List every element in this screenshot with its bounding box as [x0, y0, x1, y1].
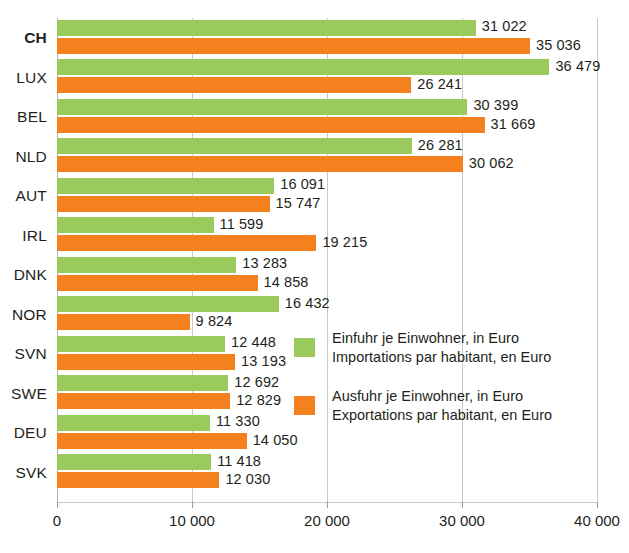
bar-group-bel: BEL30 39931 669 [0, 97, 629, 137]
category-label-bel: BEL [0, 97, 47, 137]
bar-export-bel [57, 117, 485, 133]
legend-label-de: Einfuhr je Einwohner, in Euro [332, 329, 551, 348]
value-label-export-svn: 13 193 [241, 353, 286, 369]
x-tick-label: 40 000 [574, 512, 620, 529]
bar-group-svk: SVK11 41812 030 [0, 453, 629, 493]
value-label-import-nor: 16 432 [285, 295, 330, 311]
bar-group-aut: AUT16 09115 747 [0, 176, 629, 216]
x-tick-label: 30 000 [439, 512, 485, 529]
bar-group-dnk: DNK13 28314 858 [0, 255, 629, 295]
category-label-lux: LUX [0, 58, 47, 98]
tick-mark [597, 502, 598, 508]
tick-mark [192, 502, 193, 508]
value-label-export-bel: 31 669 [491, 116, 536, 132]
legend-label-de: Ausfuhr je Einwohner, in Euro [332, 387, 552, 406]
bar-export-nld [57, 156, 463, 172]
category-label-svn: SVN [0, 334, 47, 374]
bar-group-lux: LUX36 47926 241 [0, 58, 629, 98]
bar-import-bel [57, 99, 467, 115]
legend-label-fr: Importations par habitant, en Euro [332, 348, 551, 367]
grouped-bar-chart: 010 00020 00030 00040 000 CH31 02235 036… [0, 0, 629, 553]
bar-export-svk [57, 472, 219, 488]
legend-item-export: Ausfuhr je Einwohner, in EuroExportation… [294, 390, 594, 430]
legend-label: Ausfuhr je Einwohner, in EuroExportation… [332, 387, 552, 425]
x-tick-label: 20 000 [304, 512, 350, 529]
value-label-import-lux: 36 479 [555, 58, 600, 74]
value-label-import-swe: 12 692 [234, 374, 279, 390]
bar-import-nld [57, 138, 412, 154]
value-label-import-dnk: 13 283 [242, 255, 287, 271]
bar-import-dnk [57, 257, 236, 273]
value-label-import-bel: 30 399 [473, 97, 518, 113]
tick-mark [57, 502, 58, 508]
value-label-export-irl: 19 215 [322, 234, 367, 250]
bar-import-lux [57, 59, 549, 75]
value-label-import-irl: 11 599 [220, 216, 264, 232]
value-label-import-nld: 26 281 [418, 137, 463, 153]
bar-group-ch: CH31 02235 036 [0, 18, 629, 58]
legend-swatch-green [294, 338, 315, 357]
category-label-dnk: DNK [0, 255, 47, 295]
category-label-svk: SVK [0, 453, 47, 493]
x-tick-label: 10 000 [169, 512, 215, 529]
value-label-export-ch: 35 036 [536, 37, 581, 53]
value-label-import-ch: 31 022 [482, 18, 527, 34]
bar-import-irl [57, 217, 214, 233]
bar-import-swe [57, 375, 228, 391]
value-label-export-aut: 15 747 [276, 195, 321, 211]
category-label-nor: NOR [0, 295, 47, 335]
category-label-ch: CH [0, 18, 47, 58]
tick-mark [327, 502, 328, 508]
bar-import-ch [57, 20, 476, 36]
bar-export-nor [57, 314, 190, 330]
value-label-import-aut: 16 091 [280, 176, 325, 192]
category-label-nld: NLD [0, 137, 47, 177]
value-label-export-svk: 12 030 [225, 471, 270, 487]
value-label-import-svn: 12 448 [231, 334, 276, 350]
bar-import-aut [57, 178, 274, 194]
value-label-export-nld: 30 062 [469, 155, 514, 171]
tick-mark [462, 502, 463, 508]
legend-label-fr: Exportations par habitant, en Euro [332, 406, 552, 425]
bar-export-deu [57, 433, 247, 449]
value-label-export-dnk: 14 858 [264, 274, 309, 290]
bar-import-svk [57, 454, 211, 470]
category-label-swe: SWE [0, 374, 47, 414]
category-label-irl: IRL [0, 216, 47, 256]
bar-export-swe [57, 393, 230, 409]
value-label-export-deu: 14 050 [253, 432, 298, 448]
category-label-deu: DEU [0, 413, 47, 453]
bar-import-svn [57, 336, 225, 352]
bar-export-dnk [57, 275, 258, 291]
category-label-aut: AUT [0, 176, 47, 216]
bar-group-irl: IRL11 59919 215 [0, 216, 629, 256]
legend-label: Einfuhr je Einwohner, in EuroImportation… [332, 329, 551, 367]
bar-export-lux [57, 77, 411, 93]
value-label-import-deu: 11 330 [216, 413, 260, 429]
bar-export-irl [57, 235, 316, 251]
x-tick-label: 0 [53, 512, 61, 529]
value-label-import-svk: 11 418 [217, 453, 261, 469]
value-label-export-swe: 12 829 [236, 392, 281, 408]
bar-group-nld: NLD26 28130 062 [0, 137, 629, 177]
bar-export-ch [57, 38, 530, 54]
bar-export-svn [57, 354, 235, 370]
bar-import-nor [57, 296, 279, 312]
legend-item-import: Einfuhr je Einwohner, in EuroImportation… [294, 332, 594, 372]
bar-import-deu [57, 415, 210, 431]
bar-export-aut [57, 196, 270, 212]
value-label-export-nor: 9 824 [196, 313, 233, 329]
legend-swatch-orange [294, 396, 315, 415]
value-label-export-lux: 26 241 [417, 76, 462, 92]
